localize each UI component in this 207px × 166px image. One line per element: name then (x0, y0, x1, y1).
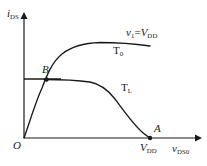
x-axis-label: vDS0 (172, 143, 189, 154)
x-axis-tick-label-vdd: VDD (140, 142, 157, 153)
transistor-characteristic-figure: iDS vDS0 O VDD v1=VDD T0 TL B A (0, 0, 207, 166)
curve-t0-label: T0 (113, 45, 123, 56)
point-a-marker (148, 136, 152, 140)
point-b-marker (44, 77, 48, 81)
origin-label: O (13, 140, 21, 151)
point-a-label: A (154, 123, 161, 134)
curve-tl (44, 80, 150, 139)
gate-voltage-annotation: v1=VDD (126, 27, 157, 38)
y-axis-label: iDS (7, 8, 19, 19)
point-b-label: B (42, 64, 49, 75)
curve-tl-label: TL (121, 82, 132, 93)
